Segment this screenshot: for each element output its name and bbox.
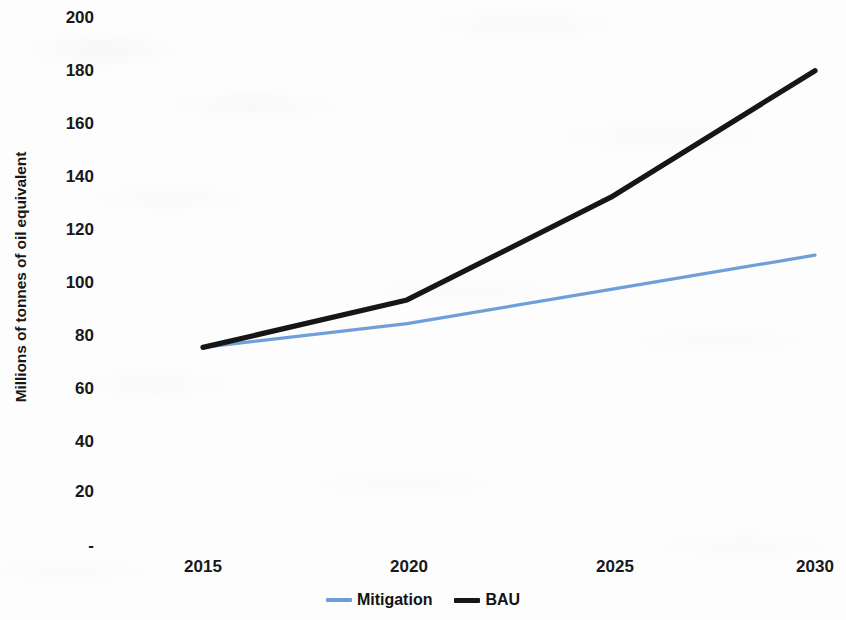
legend-line-swatch-icon [454,598,480,603]
x-tick-label: 2020 [354,557,464,577]
x-tick-label: 2015 [148,557,258,577]
legend-entry-bau[interactable]: BAU [454,591,520,609]
legend-entry-mitigation[interactable]: Mitigation [326,591,433,609]
legend-label: Mitigation [357,591,433,609]
legend-line-swatch-icon [326,598,352,602]
x-axis-tick-labels: 2015 2020 2025 2030 [0,557,846,583]
legend-label: BAU [485,591,520,609]
x-tick-label: 2025 [560,557,670,577]
plot-area [0,0,846,620]
plot-svg [0,0,846,620]
x-tick-label: 2030 [760,557,846,577]
chart-legend: Mitigation BAU [0,591,846,609]
series-line-mitigation [203,255,815,347]
line-chart-figure: Millions of tonnes of oil equivalent 200… [0,0,846,620]
